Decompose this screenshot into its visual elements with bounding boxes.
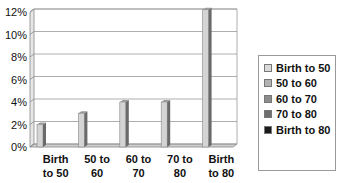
x-category-label: 70 xyxy=(132,167,144,179)
legend-swatch xyxy=(264,79,272,87)
x-category-label: to 80 xyxy=(208,167,234,179)
y-tick-label: 10% xyxy=(5,29,27,41)
legend-swatch xyxy=(264,64,272,72)
legend-label: 50 to 60 xyxy=(276,77,317,89)
y-tick-label: 12% xyxy=(5,6,27,18)
y-tick-label: 6% xyxy=(11,74,27,86)
legend-label: Birth to 80 xyxy=(276,124,330,136)
legend-swatch xyxy=(264,126,272,134)
legend: Birth to 50 50 to 60 60 to 70 70 to 80 B… xyxy=(258,55,336,171)
x-category-label: to 50 xyxy=(43,167,69,179)
x-axis-labels: Birthto 5050 to6060 to7070 to80Birthto 8… xyxy=(43,153,235,179)
bar xyxy=(78,113,84,147)
bar xyxy=(120,102,126,147)
legend-label: 70 to 80 xyxy=(276,108,317,120)
legend-swatch xyxy=(264,95,272,103)
y-axis-ticks: 0%2%4%6%8%10%12% xyxy=(5,6,27,153)
legend-item: Birth to 80 xyxy=(264,122,335,138)
legend-item: 50 to 60 xyxy=(264,76,335,92)
bar xyxy=(161,102,167,147)
y-tick-label: 0% xyxy=(11,141,27,153)
y-tick-label: 8% xyxy=(11,51,27,63)
x-category-label: 70 to xyxy=(167,153,193,165)
x-category-label: Birth xyxy=(43,153,69,165)
x-category-label: Birth xyxy=(208,153,234,165)
bar xyxy=(37,125,43,148)
x-category-label: 50 to xyxy=(84,153,110,165)
legend-swatch xyxy=(264,110,272,118)
x-category-label: 60 xyxy=(91,167,103,179)
bar xyxy=(203,10,209,147)
x-category-label: 80 xyxy=(174,167,186,179)
x-category-label: 60 to xyxy=(126,153,152,165)
y-tick-label: 4% xyxy=(11,96,27,108)
legend-item: Birth to 50 xyxy=(264,60,335,76)
legend-item: 70 to 80 xyxy=(264,107,335,123)
y-tick-label: 2% xyxy=(11,119,27,131)
bars xyxy=(37,8,212,147)
legend-label: 60 to 70 xyxy=(276,93,317,105)
legend-label: Birth to 50 xyxy=(276,62,330,74)
legend-item: 60 to 70 xyxy=(264,91,335,107)
